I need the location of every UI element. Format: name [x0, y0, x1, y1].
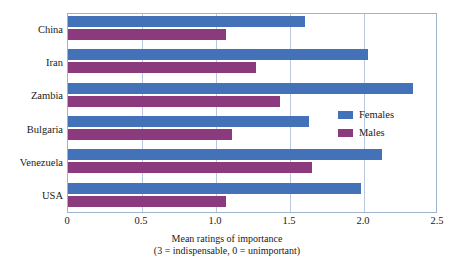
- x-tick-label: 1.0: [208, 215, 221, 227]
- legend-swatch-males-icon: [338, 129, 353, 137]
- bar-females-usa: [68, 183, 361, 194]
- bar-females-bulgaria: [68, 116, 309, 127]
- legend-swatch-females-icon: [338, 111, 353, 119]
- category-label-usa: USA: [0, 190, 63, 201]
- legend-label-females: Females: [359, 109, 394, 121]
- x-axis-title: Mean ratings of importance (3 = indispen…: [0, 233, 454, 256]
- bar-males-usa: [68, 196, 226, 207]
- category-label-iran: Iran: [0, 57, 63, 68]
- bar-group: [68, 47, 436, 80]
- x-axis-tick-labels: 00.51.01.52.02.5: [67, 215, 437, 229]
- legend-item-females: Females: [338, 106, 428, 124]
- x-tick-label: 2.0: [356, 215, 369, 227]
- x-tick-label: 2.5: [430, 215, 443, 227]
- bar-males-venezuela: [68, 162, 312, 173]
- category-label-venezuela: Venezuela: [0, 157, 63, 168]
- bar-females-china: [68, 16, 305, 27]
- chart-legend: Females Males: [338, 106, 428, 142]
- bar-males-zambia: [68, 96, 280, 107]
- category-axis-labels: ChinaIranZambiaBulgariaVenezuelaUSA: [0, 13, 63, 213]
- x-axis-title-line2: (3 = indispensable, 0 = unimportant): [0, 245, 454, 257]
- category-label-bulgaria: Bulgaria: [0, 124, 63, 135]
- bar-males-iran: [68, 62, 256, 73]
- x-axis-title-line1: Mean ratings of importance: [172, 233, 283, 244]
- legend-label-males: Males: [359, 127, 385, 139]
- bar-females-iran: [68, 49, 368, 60]
- category-label-zambia: Zambia: [0, 90, 63, 101]
- category-label-china: China: [0, 24, 63, 35]
- bar-males-china: [68, 29, 226, 40]
- bar-group: [68, 181, 436, 214]
- bar-females-zambia: [68, 83, 413, 94]
- bar-group: [68, 14, 436, 47]
- bar-males-bulgaria: [68, 129, 232, 140]
- x-tick-label: 0.5: [134, 215, 147, 227]
- x-tick-label: 1.5: [282, 215, 295, 227]
- legend-item-males: Males: [338, 124, 428, 142]
- x-tick-label: 0: [64, 215, 69, 227]
- bar-group: [68, 147, 436, 180]
- bar-females-venezuela: [68, 149, 382, 160]
- bar-chart: ChinaIranZambiaBulgariaVenezuelaUSA 00.5…: [0, 0, 454, 269]
